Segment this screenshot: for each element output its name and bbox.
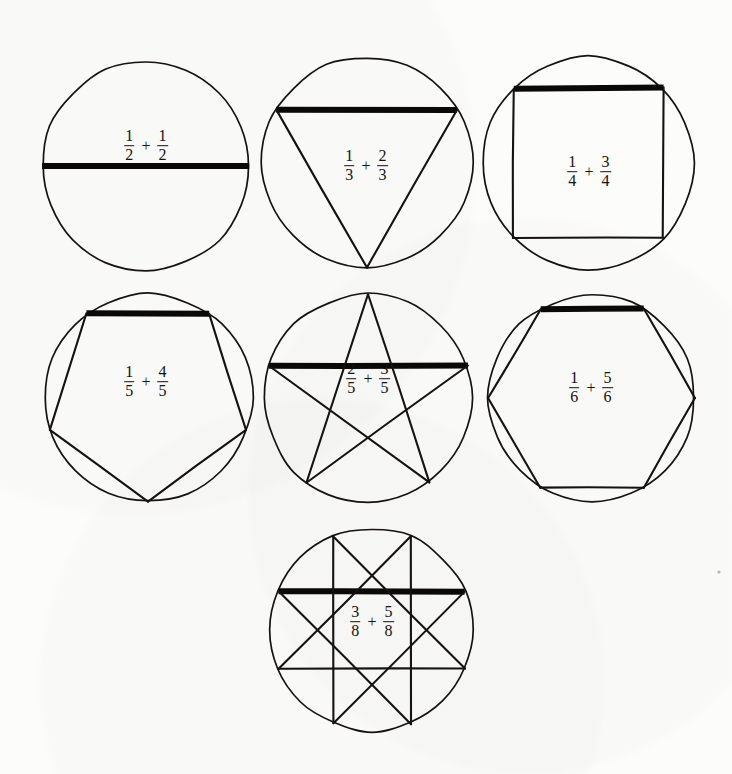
denominator: 5 bbox=[124, 382, 134, 400]
polygon-edge bbox=[513, 238, 663, 239]
fraction-left: 25 bbox=[346, 361, 356, 397]
fraction-left: 38 bbox=[350, 604, 360, 640]
polygon-edge bbox=[50, 313, 87, 430]
fraction-left: 16 bbox=[569, 370, 579, 406]
polygon-edge bbox=[148, 430, 246, 502]
fraction-label-fig-fifth: 15+45 bbox=[124, 364, 168, 400]
plus-operator: + bbox=[579, 380, 602, 396]
paper-speck bbox=[717, 570, 720, 573]
highlighted-edge bbox=[86, 313, 209, 314]
numerator: 1 bbox=[158, 128, 168, 145]
plus-operator: + bbox=[356, 371, 379, 387]
denominator: 2 bbox=[124, 146, 134, 164]
highlighted-edge bbox=[541, 309, 644, 310]
figure-pentagram bbox=[264, 293, 472, 502]
denominator: 5 bbox=[346, 379, 356, 397]
plus-operator: + bbox=[134, 374, 157, 390]
polygon-edge bbox=[276, 110, 367, 268]
plus-operator: + bbox=[360, 614, 383, 630]
denominator: 6 bbox=[603, 388, 613, 406]
denominator: 2 bbox=[158, 146, 168, 164]
polygon-edge bbox=[513, 89, 514, 238]
figure-sheet: 12+1213+2314+3415+4525+3516+5638+58 bbox=[0, 0, 732, 774]
numerator: 1 bbox=[124, 364, 134, 381]
fraction-right: 12 bbox=[158, 128, 168, 164]
numerator: 4 bbox=[158, 364, 168, 381]
denominator: 6 bbox=[569, 388, 579, 406]
fraction-label-fig-half: 12+12 bbox=[124, 128, 168, 164]
numerator: 5 bbox=[603, 370, 613, 387]
polygon-edge bbox=[663, 87, 664, 237]
plus-operator: + bbox=[354, 158, 377, 174]
denominator: 3 bbox=[344, 166, 354, 184]
fraction-left: 15 bbox=[124, 364, 134, 400]
fraction-label-fig-three-eighths: 38+58 bbox=[350, 604, 394, 640]
denominator: 8 bbox=[384, 622, 394, 640]
numerator: 1 bbox=[569, 370, 579, 387]
numerator: 3 bbox=[350, 604, 360, 621]
denominator: 4 bbox=[601, 172, 611, 190]
numerator: 3 bbox=[601, 154, 611, 171]
plus-operator: + bbox=[134, 138, 157, 154]
polygon-edge bbox=[488, 309, 541, 398]
denominator: 5 bbox=[158, 382, 168, 400]
denominator: 3 bbox=[378, 166, 388, 184]
fraction-right: 35 bbox=[380, 361, 390, 397]
fraction-right: 34 bbox=[601, 154, 611, 190]
fraction-label-fig-two-fifths: 25+35 bbox=[346, 361, 390, 397]
numerator: 3 bbox=[380, 361, 390, 378]
polygon-edge bbox=[209, 314, 246, 430]
numerator: 2 bbox=[346, 361, 356, 378]
numerator: 2 bbox=[378, 148, 388, 165]
numerator: 1 bbox=[124, 128, 134, 145]
fraction-label-fig-sixth: 16+56 bbox=[569, 370, 613, 406]
polygon-edge bbox=[644, 309, 695, 399]
fraction-right: 56 bbox=[603, 370, 613, 406]
fraction-right: 45 bbox=[158, 364, 168, 400]
circumscribed-circle bbox=[264, 293, 472, 502]
polygon-edge bbox=[50, 430, 148, 502]
numerator: 1 bbox=[344, 148, 354, 165]
fraction-label-fig-quarter: 14+34 bbox=[567, 154, 611, 190]
polygon-edge bbox=[540, 487, 644, 488]
numerator: 1 bbox=[567, 154, 577, 171]
plus-operator: + bbox=[577, 164, 600, 180]
polygon-edge bbox=[644, 398, 695, 488]
numerator: 5 bbox=[384, 604, 394, 621]
fraction-right: 58 bbox=[384, 604, 394, 640]
fraction-left: 13 bbox=[344, 148, 354, 184]
polygon-edge bbox=[367, 110, 457, 267]
denominator: 8 bbox=[350, 622, 360, 640]
fraction-right: 23 bbox=[378, 148, 388, 184]
figure-diameter-chord bbox=[42, 62, 249, 271]
fraction-left: 14 bbox=[567, 154, 577, 190]
denominator: 5 bbox=[380, 379, 390, 397]
polygon-edge bbox=[488, 398, 540, 488]
fraction-left: 12 bbox=[124, 128, 134, 164]
denominator: 4 bbox=[567, 172, 577, 190]
highlighted-edge bbox=[514, 87, 664, 88]
fraction-label-fig-third: 13+23 bbox=[344, 148, 388, 184]
